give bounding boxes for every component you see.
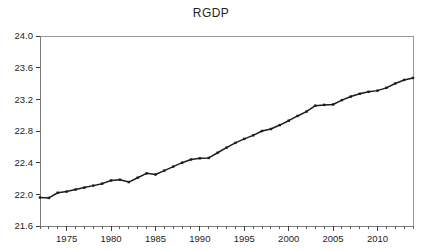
data-point — [314, 104, 316, 106]
data-point — [403, 79, 405, 81]
y-tick-label: 23.2 — [15, 94, 34, 105]
x-tick-label: 1980 — [100, 233, 121, 244]
data-point — [394, 82, 396, 84]
data-point — [199, 157, 201, 159]
y-tick-label: 22.8 — [15, 125, 34, 136]
data-point — [39, 196, 41, 198]
data-point — [119, 178, 121, 180]
data-point — [243, 138, 245, 140]
data-point — [261, 130, 263, 132]
data-point — [172, 165, 174, 167]
plot-frame — [40, 36, 413, 226]
data-point — [296, 115, 298, 117]
x-tick-label: 1990 — [189, 233, 210, 244]
x-tick-label: 1985 — [145, 233, 166, 244]
data-point — [367, 91, 369, 93]
rgdp-line-chart: 24.023.623.222.822.422.021.6 19751980198… — [0, 0, 422, 251]
data-point — [305, 110, 307, 112]
data-point — [279, 124, 281, 126]
x-tick-label: 1975 — [56, 233, 77, 244]
data-point — [190, 158, 192, 160]
y-axis: 24.023.623.222.822.422.021.6 — [15, 30, 41, 231]
data-point — [216, 152, 218, 154]
series-line-rgdp — [40, 78, 413, 198]
data-point — [128, 181, 130, 183]
data-point — [323, 104, 325, 106]
data-point — [252, 134, 254, 136]
y-tick-label: 22.0 — [15, 189, 34, 200]
data-point — [101, 182, 103, 184]
data-point — [270, 128, 272, 130]
data-point — [332, 103, 334, 105]
data-point — [145, 172, 147, 174]
data-point — [234, 142, 236, 144]
data-point — [287, 120, 289, 122]
data-point — [48, 197, 50, 199]
data-point — [181, 161, 183, 163]
series-rgdp — [39, 77, 414, 199]
data-point — [92, 184, 94, 186]
x-tick-label: 2010 — [367, 233, 388, 244]
data-point — [136, 177, 138, 179]
y-tick-label: 24.0 — [15, 30, 34, 41]
data-point — [208, 157, 210, 159]
data-point — [57, 192, 59, 194]
data-point — [163, 169, 165, 171]
data-point — [74, 188, 76, 190]
data-point — [385, 87, 387, 89]
data-point — [412, 77, 414, 79]
x-axis: 19751980198519901995200020052010 — [40, 226, 413, 244]
x-tick-label: 2005 — [323, 233, 344, 244]
data-point — [110, 179, 112, 181]
data-point — [154, 173, 156, 175]
y-tick-label: 23.6 — [15, 62, 34, 73]
x-tick-label: 2000 — [278, 233, 299, 244]
chart-container: RGDP 24.023.623.222.822.422.021.6 197519… — [0, 0, 422, 251]
data-point — [359, 93, 361, 95]
data-point — [225, 146, 227, 148]
y-tick-label: 21.6 — [15, 220, 34, 231]
data-point — [83, 186, 85, 188]
data-point — [65, 190, 67, 192]
y-tick-label: 22.4 — [15, 157, 34, 168]
data-point — [350, 95, 352, 97]
data-point — [341, 99, 343, 101]
x-tick-label: 1995 — [234, 233, 255, 244]
data-point — [376, 89, 378, 91]
